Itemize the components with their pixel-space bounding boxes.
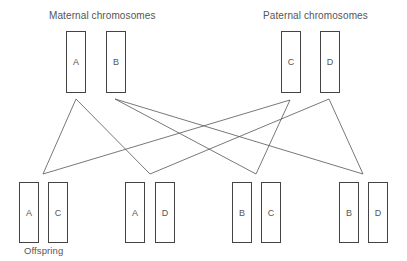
offspring-ad-chromosome-a: A: [125, 182, 145, 243]
line-a-to-ad: [76, 99, 150, 174]
offspring-bc-chromosome-b: B: [232, 182, 252, 243]
offspring-heading: Offspring: [24, 245, 63, 256]
chromosome-label: D: [375, 208, 382, 218]
maternal-heading: Maternal chromosomes: [49, 10, 155, 21]
line-c-to-ac: [43, 100, 290, 174]
maternal-chromosome-a: A: [66, 31, 86, 93]
chromosome-label: A: [73, 57, 79, 67]
chromosome-label: B: [113, 57, 119, 67]
chromosome-label: C: [55, 208, 62, 218]
line-c-to-bc: [256, 100, 290, 174]
line-a-to-ac: [43, 99, 76, 174]
chromosome-label: D: [162, 208, 169, 218]
chromosome-label: C: [288, 57, 295, 67]
paternal-heading: Paternal chromosomes: [263, 10, 368, 21]
offspring-ac-chromosome-c: C: [48, 182, 68, 243]
line-b-to-bc: [115, 99, 256, 174]
chromosome-label: B: [346, 208, 352, 218]
line-d-to-bd: [329, 99, 363, 174]
chromosome-label: B: [239, 208, 245, 218]
offspring-bc-chromosome-c: C: [261, 182, 281, 243]
line-d-to-ad: [150, 99, 329, 174]
maternal-chromosome-b: B: [106, 31, 126, 93]
paternal-chromosome-d: D: [320, 31, 340, 93]
offspring-ac-chromosome-a: A: [19, 182, 39, 243]
offspring-ad-chromosome-d: D: [155, 182, 175, 243]
offspring-bd-chromosome-d: D: [368, 182, 388, 243]
chromosome-label: A: [132, 208, 138, 218]
chromosome-label: A: [26, 208, 32, 218]
paternal-chromosome-c: C: [281, 31, 301, 93]
offspring-bd-chromosome-b: B: [339, 182, 359, 243]
chromosome-label: D: [327, 57, 334, 67]
chromosome-label: C: [268, 208, 275, 218]
